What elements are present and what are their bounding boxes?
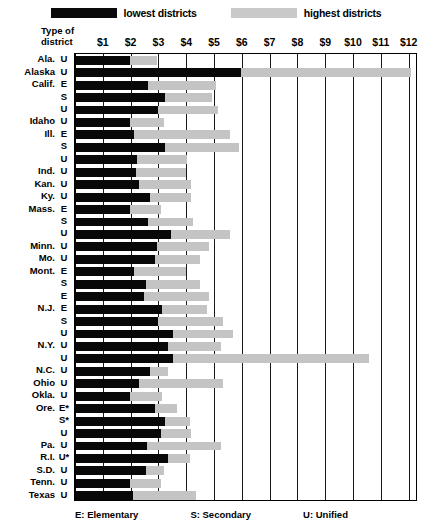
district-type-letter: E <box>55 303 73 313</box>
bar-lowest-districts <box>76 479 130 488</box>
bar-row <box>76 454 416 463</box>
bar-row <box>76 56 416 65</box>
bar-lowest-districts <box>76 143 165 152</box>
district-type-letter: S <box>55 216 73 226</box>
bar-row <box>76 205 416 214</box>
bar-row <box>76 491 416 500</box>
bar-lowest-districts <box>76 180 139 189</box>
bar-row <box>76 267 416 276</box>
bar-lowest-districts <box>76 442 147 451</box>
bar-row <box>76 466 416 475</box>
state-label: Calif. <box>32 79 55 89</box>
state-label: N.C. <box>36 365 55 375</box>
bar-lowest-districts <box>76 466 146 475</box>
district-type-letter: E <box>55 291 73 301</box>
bar-row <box>76 118 416 127</box>
x-axis-tick-2: $2 <box>125 36 137 48</box>
district-type-letter: E <box>55 129 73 139</box>
bar-lowest-districts <box>76 429 161 438</box>
district-type-letter: U <box>55 154 73 164</box>
bar-lowest-districts <box>76 68 241 77</box>
bar-lowest-districts <box>76 367 150 376</box>
bar-lowest-districts <box>76 417 165 426</box>
x-axis-tick-labels: $1$2$3$4$5$6$7$8$9$10$11$12 <box>0 36 432 50</box>
legend-swatch-lowest-icon <box>51 8 117 18</box>
district-type-letter: S* <box>55 415 73 425</box>
bar-lowest-districts <box>76 255 155 264</box>
district-type-letter: U <box>55 465 73 475</box>
bar-row <box>76 93 416 102</box>
footnote-secondary: S: Secondary <box>190 509 251 520</box>
footnote-elementary: E: Elementary <box>75 509 138 520</box>
bar-lowest-districts <box>76 354 173 363</box>
district-type-letter: U <box>55 378 73 388</box>
bar-row <box>76 68 416 77</box>
state-label: Ore. <box>36 403 55 413</box>
bar-lowest-districts <box>76 118 130 127</box>
state-label: Kan. <box>34 179 55 189</box>
state-label: Idaho <box>30 116 55 126</box>
bar-lowest-districts <box>76 155 137 164</box>
bar-row <box>76 392 416 401</box>
bar-row <box>76 305 416 314</box>
state-label: Okla. <box>32 390 55 400</box>
district-type-letter: E <box>55 266 73 276</box>
x-axis-tick-9: $9 <box>319 36 331 48</box>
district-type-letter: U* <box>55 452 73 462</box>
chart-legend: lowest districts highest districts <box>0 3 432 23</box>
bar-lowest-districts <box>76 267 134 276</box>
district-type-letter: U <box>55 104 73 114</box>
state-label: Ala. <box>38 54 55 64</box>
bar-lowest-districts <box>76 93 165 102</box>
state-label: N.Y. <box>38 340 55 350</box>
bar-row <box>76 106 416 115</box>
bar-lowest-districts <box>76 379 139 388</box>
district-type-letter: U <box>55 191 73 201</box>
bar-row <box>76 367 416 376</box>
legend-label-lowest: lowest districts <box>124 8 197 19</box>
district-type-letter: U <box>55 328 73 338</box>
bar-lowest-districts <box>76 454 168 463</box>
bar-lowest-districts <box>76 292 144 301</box>
bar-lowest-districts <box>76 317 158 326</box>
bar-lowest-districts <box>76 130 134 139</box>
bar-row <box>76 442 416 451</box>
state-label: S.D. <box>37 465 55 475</box>
district-type-letter: E <box>55 79 73 89</box>
bar-lowest-districts <box>76 205 130 214</box>
state-label: Mass. <box>29 204 55 214</box>
x-axis-tick-10: $10 <box>344 36 362 48</box>
district-type-letter: U <box>55 166 73 176</box>
bar-row <box>76 193 416 202</box>
bar-row <box>76 404 416 413</box>
bar-lowest-districts <box>76 230 171 239</box>
district-type-letter: U <box>55 340 73 350</box>
district-type-letter: U <box>55 440 73 450</box>
bar-lowest-districts <box>76 330 173 339</box>
bar-lowest-districts <box>76 106 158 115</box>
district-type-letter: U <box>55 241 73 251</box>
district-type-letter: U <box>55 490 73 500</box>
bar-row <box>76 180 416 189</box>
type-of-district-line1: Type of <box>41 26 87 37</box>
bar-row <box>76 317 416 326</box>
district-type-letter: U <box>55 253 73 263</box>
bar-lowest-districts <box>76 81 148 90</box>
bar-row <box>76 155 416 164</box>
bar-row <box>76 255 416 264</box>
bar-lowest-districts <box>76 305 162 314</box>
state-label: Mont. <box>30 266 55 276</box>
district-type-letter: E* <box>55 403 73 413</box>
bar-row <box>76 168 416 177</box>
bar-row <box>76 292 416 301</box>
state-label: Ind. <box>38 166 55 176</box>
bar-row <box>76 379 416 388</box>
district-type-letter: U <box>55 353 73 363</box>
x-axis-tick-5: $5 <box>208 36 220 48</box>
bar-lowest-districts <box>76 242 157 251</box>
bars-layer <box>76 54 416 500</box>
bar-lowest-districts <box>76 342 168 351</box>
legend-item-highest: highest districts <box>231 8 382 19</box>
district-type-letter: S <box>55 316 73 326</box>
district-type-letter: U <box>55 116 73 126</box>
